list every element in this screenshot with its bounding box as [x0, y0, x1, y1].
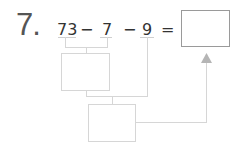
connector-line — [112, 96, 113, 104]
question-number: 7. — [16, 8, 40, 42]
connector-line — [136, 122, 207, 123]
connector-line — [86, 96, 148, 97]
step1-box[interactable] — [61, 53, 110, 91]
term-73-underline — [58, 37, 76, 38]
minus-operator-2: − — [123, 20, 136, 40]
connector-line — [206, 60, 207, 123]
answer-box[interactable] — [181, 10, 230, 47]
equals-sign: = — [161, 20, 174, 40]
connector-line — [65, 37, 66, 47]
arrow-up-icon — [201, 53, 212, 63]
connector-line — [107, 37, 108, 47]
term-7-underline — [100, 37, 112, 38]
minus-operator-1: − — [80, 20, 93, 40]
step2-box[interactable] — [88, 104, 136, 142]
connector-line — [147, 37, 148, 96]
